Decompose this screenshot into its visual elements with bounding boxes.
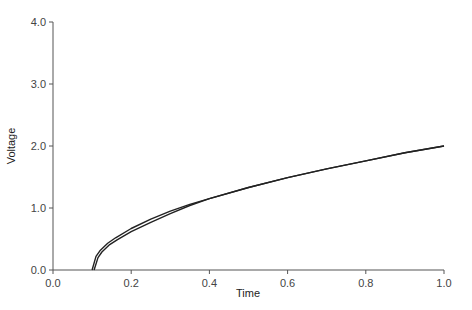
x-tick-label: 0.8 xyxy=(358,277,373,289)
x-tick-label: 0.4 xyxy=(202,277,217,289)
y-tick-label: 3.0 xyxy=(31,78,46,90)
y-axis-label: Voltage xyxy=(5,128,17,165)
series-line-curve-upper xyxy=(92,146,444,270)
x-tick-label: 1.0 xyxy=(436,277,451,289)
y-tick-label: 1.0 xyxy=(31,202,46,214)
x-tick-label: 0.0 xyxy=(45,277,60,289)
y-tick-label: 2.0 xyxy=(31,140,46,152)
voltage-time-chart: 0.01.02.03.04.00.00.20.40.60.81.0 Time V… xyxy=(0,0,472,310)
x-axis-label: Time xyxy=(236,287,260,299)
x-tick-label: 0.2 xyxy=(124,277,139,289)
plot-area xyxy=(92,146,444,270)
y-tick-label: 4.0 xyxy=(31,16,46,28)
axes: 0.01.02.03.04.00.00.20.40.60.81.0 xyxy=(31,16,452,289)
x-tick-label: 0.6 xyxy=(280,277,295,289)
y-tick-label: 0.0 xyxy=(31,264,46,276)
series-line-curve-lower xyxy=(94,146,444,270)
